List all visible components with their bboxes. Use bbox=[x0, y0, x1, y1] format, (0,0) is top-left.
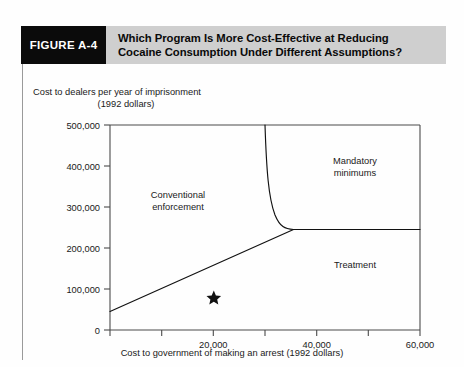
y-axis-tick-labels: 500,000 400,000 300,000 200,000 100,000 … bbox=[66, 121, 100, 336]
x-axis-caption: Cost to government of making an arrest (… bbox=[0, 348, 464, 358]
region-label-conventional-enforcement-line-2: enforcement bbox=[152, 202, 204, 212]
y-tick-label-300000: 300,000 bbox=[66, 203, 100, 213]
y-tick-label-200000: 200,000 bbox=[66, 244, 100, 254]
y-tick-label-0: 0 bbox=[95, 326, 100, 336]
y-tick-label-500000: 500,000 bbox=[66, 121, 100, 131]
boundary-conventional-mandatory bbox=[265, 125, 294, 230]
figure-page: FIGURE A-4 Which Program Is More Cost-Ef… bbox=[0, 0, 464, 367]
chart-plot-area: 500,000 400,000 300,000 200,000 100,000 … bbox=[0, 0, 464, 367]
y-axis-ticks bbox=[104, 125, 110, 330]
x-axis-caption-text: Cost to government of making an arrest (… bbox=[121, 348, 344, 358]
region-label-conventional-enforcement-line-1: Conventional bbox=[151, 190, 205, 200]
y-tick-label-100000: 100,000 bbox=[66, 285, 100, 295]
region-labels: Conventional enforcement Mandatory minim… bbox=[151, 156, 377, 270]
chart-svg: 500,000 400,000 300,000 200,000 100,000 … bbox=[0, 0, 464, 367]
region-label-mandatory-minimums-line-1: Mandatory bbox=[333, 156, 377, 166]
y-tick-label-400000: 400,000 bbox=[66, 162, 100, 172]
base-case-estimate-star-icon bbox=[207, 291, 222, 305]
region-label-treatment: Treatment bbox=[334, 260, 376, 270]
boundary-conventional-treatment bbox=[110, 230, 294, 312]
region-boundaries bbox=[110, 125, 420, 312]
x-axis-ticks bbox=[110, 330, 420, 336]
region-label-mandatory-minimums-line-2: minimums bbox=[334, 168, 377, 178]
